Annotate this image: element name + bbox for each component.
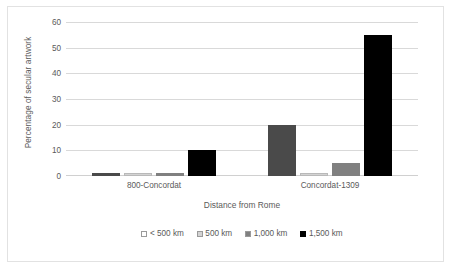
bar [156, 173, 184, 176]
y-axis-tick-label: 30 [52, 95, 61, 104]
y-axis-tick-label: 60 [52, 18, 61, 27]
x-axis-title: Distance from Rome [66, 200, 418, 210]
bar [332, 163, 360, 176]
legend-label: < 500 km [150, 229, 184, 238]
plot-area: 0102030405060 800-ConcordatConcordat-130… [66, 22, 418, 176]
bar [188, 150, 216, 176]
legend-label: 500 km [205, 229, 232, 238]
y-axis-tick-label: 20 [52, 120, 61, 129]
bar [124, 173, 152, 176]
legend-swatch-icon [197, 231, 203, 237]
bar [300, 173, 328, 176]
x-axis-category-label: 800-Concordat [127, 181, 181, 190]
legend-item[interactable]: 1,500 km [300, 229, 342, 238]
legend-swatch-icon [300, 231, 306, 237]
legend-label: 1,000 km [254, 229, 288, 238]
y-axis-tick-label: 0 [56, 172, 61, 181]
chart-legend: < 500 km500 km1,000 km1,500 km [66, 229, 418, 238]
bars-layer [66, 22, 418, 176]
legend-label: 1,500 km [309, 229, 343, 238]
legend-item[interactable]: 1,000 km [245, 229, 287, 238]
legend-item[interactable]: 500 km [197, 229, 232, 238]
y-axis-title: Percentage of secular artwork [24, 3, 33, 183]
legend-swatch-icon [245, 231, 251, 237]
bar [92, 173, 120, 176]
legend-item[interactable]: < 500 km [141, 229, 183, 238]
y-axis-tick-label: 10 [52, 146, 61, 155]
bar [364, 35, 392, 176]
bar-chart: Percentage of secular artwork 0102030405… [0, 0, 451, 269]
legend-swatch-icon [141, 231, 147, 237]
bar [268, 125, 296, 176]
x-axis-category-label: Concordat-1309 [301, 181, 360, 190]
y-axis-tick-label: 40 [52, 69, 61, 78]
y-axis-tick-label: 50 [52, 43, 61, 52]
